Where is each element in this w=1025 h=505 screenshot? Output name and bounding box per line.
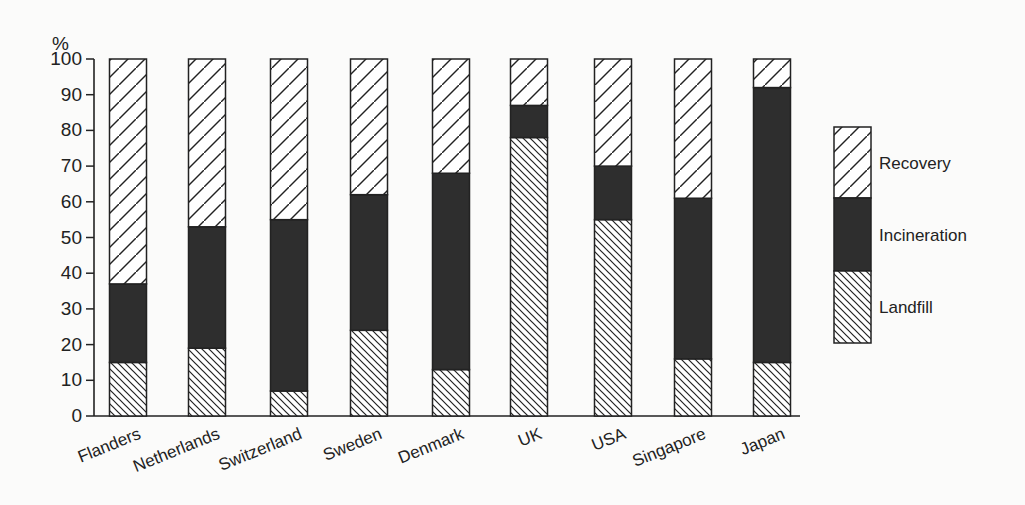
bar-uk [511,59,548,416]
segment-incineration [271,220,308,391]
legend: RecoveryIncinerationLandfill [834,127,967,343]
bars: FlandersNetherlandsSwitzerlandSwedenDenm… [75,59,790,476]
segment-recovery [110,59,147,284]
segment-landfill [433,370,470,416]
legend-label-incineration: Incineration [879,226,967,245]
segment-incineration [754,88,791,363]
segment-incineration [511,105,548,137]
segment-recovery [675,59,712,198]
segment-landfill [271,391,308,416]
x-category-label: Japan [737,424,787,459]
y-tick-label: 70 [61,155,82,176]
x-category-label: USA [589,424,629,455]
x-category-label: Sweden [320,424,384,465]
y-tick-label: 50 [61,227,82,248]
x-category-label: Netherlands [130,424,222,476]
bar-switzerland [271,59,308,416]
segment-recovery [189,59,226,227]
bar-denmark [433,59,470,416]
bar-netherlands [189,59,226,416]
y-tick-label: 0 [71,405,82,426]
segment-landfill [110,362,147,416]
y-tick-label: 40 [61,262,82,283]
stacked-bar-chart: 0102030405060708090100% FlandersNetherla… [0,0,1025,505]
segment-landfill [511,138,548,416]
segment-recovery [271,59,308,220]
legend-label-recovery: Recovery [879,154,951,173]
bar-sweden [351,59,388,416]
bar-japan [754,59,791,416]
segment-recovery [754,59,791,88]
segment-recovery [351,59,388,195]
segment-landfill [351,330,388,416]
legend-swatch-landfill [834,271,871,343]
x-category-label: Singapore [630,424,709,471]
segment-landfill [595,220,632,416]
segment-incineration [189,227,226,348]
x-category-label: Denmark [395,424,467,468]
bar-singapore [675,59,712,416]
y-tick-label: 60 [61,191,82,212]
x-category-label: Switzerland [216,424,305,475]
segment-recovery [511,59,548,105]
segment-incineration [595,166,632,220]
segment-recovery [433,59,470,173]
y-tick-label: 10 [61,369,82,390]
segment-landfill [675,359,712,416]
y-tick-label: 30 [61,298,82,319]
x-category-label: UK [515,424,545,451]
legend-label-landfill: Landfill [879,298,933,317]
segment-incineration [110,284,147,363]
y-tick-label: 80 [61,119,82,140]
segment-landfill [189,348,226,416]
legend-swatch-recovery [834,127,871,198]
legend-swatch-incineration [834,198,871,271]
segment-landfill [754,362,791,416]
segment-incineration [433,173,470,369]
bar-flanders [110,59,147,416]
bar-usa [595,59,632,416]
segment-incineration [675,198,712,359]
y-tick-label: 90 [61,84,82,105]
y-tick-label: 20 [61,334,82,355]
segment-incineration [351,195,388,331]
y-axis-label: % [52,33,69,54]
segment-recovery [595,59,632,166]
